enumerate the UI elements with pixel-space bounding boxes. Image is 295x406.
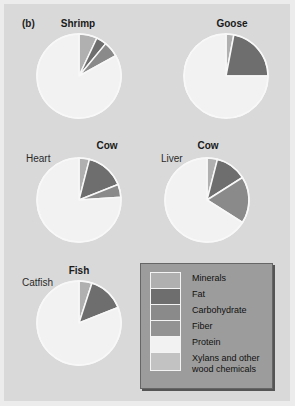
pie-fish-catfish [36,280,122,366]
pie-title-goose: Goose [192,18,272,29]
legend-label-fat: Fat [192,289,205,300]
pie-title-fish: Fish [39,265,119,276]
legend-label-protein: Protein [192,337,221,348]
legend-label-xylans: Xylans and other wood chemicals [192,353,268,375]
pie-shrimp [36,33,122,119]
panel-label: (b) [22,18,35,29]
pie-goose [183,33,269,119]
legend-swatch-protein [151,337,180,353]
legend-label-carbohydrate: Carbohydrate [192,305,247,316]
pie-title-cow-heart: Cow [67,140,147,151]
pie-title-shrimp: Shrimp [38,18,118,29]
legend-swatch-xylans [151,353,180,370]
legend-label-minerals: Minerals [192,273,226,284]
legend: Minerals Fat Carbohydrate Fiber Protein … [140,263,273,389]
pie-slice-fat [226,35,268,76]
legend-label-fiber: Fiber [192,321,213,332]
legend-swatch-fiber [151,321,180,337]
figure: (b) Shrimp Goose Cow Heart Cow Liver Fis… [0,0,295,406]
legend-swatch-fat [151,289,180,305]
legend-swatch-minerals [151,273,180,289]
pie-cow-liver [164,157,250,243]
legend-swatches [150,272,181,371]
legend-swatch-carbohydrate [151,305,180,321]
pie-title-cow-liver: Cow [168,140,248,151]
pie-cow-heart [36,157,122,243]
